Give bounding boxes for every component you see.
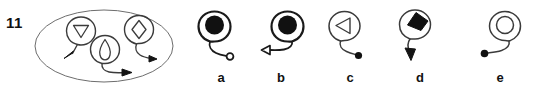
figure-tail bbox=[270, 42, 292, 51]
tail-solid-arrowhead bbox=[405, 48, 416, 61]
option-e-figure[interactable] bbox=[465, 4, 535, 70]
figure-tail bbox=[488, 41, 509, 53]
inner-circle-solid bbox=[278, 16, 297, 35]
options-row: a b c bbox=[186, 4, 535, 105]
option-c[interactable]: c bbox=[315, 4, 385, 105]
option-d-figure[interactable] bbox=[385, 4, 455, 70]
inner-circle-hollow bbox=[497, 17, 514, 34]
option-e-svg bbox=[465, 4, 535, 70]
option-e[interactable]: e bbox=[465, 4, 535, 105]
tail-hollow-triangle bbox=[262, 46, 271, 55]
stem-svg bbox=[32, 4, 180, 88]
tail-solid-dot bbox=[355, 52, 362, 59]
tail-hollow-circle bbox=[227, 53, 234, 60]
figure-body-circle bbox=[125, 16, 154, 45]
option-e-label: e bbox=[465, 70, 535, 85]
inner-circle-solid bbox=[205, 16, 224, 35]
stem-figure-group bbox=[32, 4, 180, 88]
option-d-label: d bbox=[385, 70, 455, 85]
option-b-label: b bbox=[246, 70, 316, 85]
figure-tail bbox=[210, 42, 227, 57]
tail-solid-dot bbox=[481, 50, 489, 58]
inner-teardrop bbox=[100, 40, 111, 60]
figure-body-circle bbox=[329, 12, 360, 42]
option-b[interactable]: b bbox=[246, 4, 316, 105]
inner-triangle-down bbox=[74, 26, 89, 38]
option-c-figure[interactable] bbox=[315, 4, 385, 70]
tail-solid-arrowhead bbox=[149, 56, 157, 63]
figure-body-circle bbox=[67, 17, 96, 45]
inner-diamond-solid bbox=[408, 13, 429, 31]
grouping-ellipse bbox=[35, 10, 173, 82]
option-d-svg bbox=[385, 4, 455, 70]
option-d[interactable]: d bbox=[385, 4, 455, 105]
item-number: 11 bbox=[6, 14, 23, 31]
option-c-label: c bbox=[315, 70, 385, 85]
tail-solid-arrowhead bbox=[64, 51, 74, 59]
inner-triangle-left bbox=[336, 18, 350, 34]
puzzle-item: 11 bbox=[0, 0, 535, 105]
figure-tail bbox=[340, 41, 355, 55]
option-b-figure[interactable] bbox=[246, 4, 316, 70]
option-c-svg bbox=[315, 4, 385, 70]
inner-diamond bbox=[132, 21, 146, 39]
figure-diamond bbox=[125, 16, 158, 63]
figure-teardrop bbox=[91, 36, 133, 77]
tail-solid-arrowhead bbox=[122, 69, 132, 76]
option-b-svg bbox=[246, 4, 316, 70]
